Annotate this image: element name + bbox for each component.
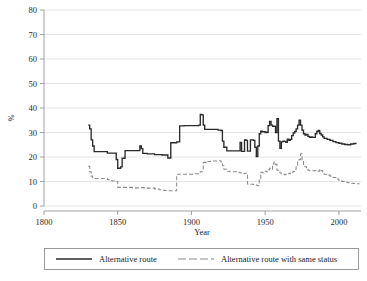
x-tick-label-1900: 1900 xyxy=(183,217,200,227)
y-tick-label-50: 50 xyxy=(29,79,38,89)
x-axis-ticks-group: 18001850190019502000 xyxy=(36,211,348,227)
series-line-alternative-route-same-status xyxy=(88,154,359,191)
x-tick-label-2000: 2000 xyxy=(330,217,347,227)
y-tick-label-80: 80 xyxy=(29,5,38,15)
y-tick-label-40: 40 xyxy=(29,103,38,113)
y-axis-ticks-group: 01020304050607080 xyxy=(29,5,45,211)
y-tick-label-0: 0 xyxy=(33,201,37,211)
chart-figure: 01020304050607080 18001850190019502000 %… xyxy=(0,0,367,281)
x-tick-label-1950: 1950 xyxy=(257,217,274,227)
y-tick-label-70: 70 xyxy=(29,30,38,40)
x-axis-title: Year xyxy=(194,227,210,237)
y-tick-label-20: 20 xyxy=(29,152,38,162)
legend-label-alternative-route-same-status: Alternative route with same status xyxy=(221,254,337,264)
chart-legend: Alternative route Alternative route with… xyxy=(45,249,359,270)
y-axis-title: % xyxy=(6,114,16,121)
line-chart-plot: 01020304050607080 18001850190019502000 %… xyxy=(0,0,367,281)
legend-label-alternative-route: Alternative route xyxy=(99,254,157,264)
y-tick-label-30: 30 xyxy=(29,128,38,138)
x-tick-label-1850: 1850 xyxy=(109,217,126,227)
x-tick-label-1800: 1800 xyxy=(36,217,53,227)
y-tick-label-60: 60 xyxy=(29,54,38,64)
series-line-alternative-route xyxy=(88,114,356,168)
y-tick-label-10: 10 xyxy=(29,177,38,187)
